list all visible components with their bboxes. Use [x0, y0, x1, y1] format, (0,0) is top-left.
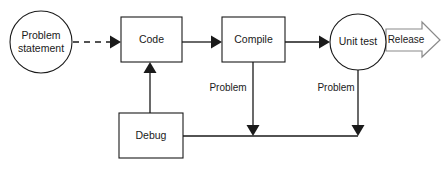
flowchart-diagram: Problem Problem Release Problem statemen… [0, 0, 442, 169]
edge-problem-statement-to-code [73, 36, 121, 49]
node-compile[interactable]: Compile [222, 17, 285, 62]
arrow-head-icon [110, 36, 121, 49]
node-problem-statement[interactable]: Problem statement [10, 11, 72, 73]
arrow-head-icon [352, 125, 365, 136]
node-label-code: Code [139, 33, 164, 45]
node-label-debug: Debug [136, 129, 167, 141]
edge-debug-to-code [144, 62, 157, 113]
node-label-release: Release [388, 34, 425, 45]
node-label-compile: Compile [234, 33, 273, 45]
arrow-head-icon [319, 36, 330, 49]
edge-label-problem-unit-test: Problem [317, 82, 354, 93]
node-label-problem-statement-line2: statement [18, 42, 64, 54]
edge-compile-to-unit-test [285, 36, 330, 49]
node-unit-test[interactable]: Unit test [330, 14, 386, 70]
node-release[interactable]: Release [386, 22, 440, 57]
node-code[interactable]: Code [121, 17, 182, 62]
arrow-head-icon [144, 62, 157, 73]
flowchart-canvas: Problem Problem Release Problem statemen… [0, 0, 442, 169]
edge-compile-problem-to-debug: Problem [209, 62, 259, 136]
node-label-unit-test: Unit test [339, 35, 378, 47]
node-debug[interactable]: Debug [119, 113, 183, 158]
edge-unit-test-problem-to-debug: Problem [317, 70, 364, 136]
edge-code-to-compile [182, 36, 222, 49]
arrow-head-icon [247, 125, 260, 136]
edge-label-problem-compile: Problem [209, 82, 246, 93]
node-label-problem-statement-line1: Problem [21, 29, 60, 41]
arrow-head-icon [211, 36, 222, 49]
